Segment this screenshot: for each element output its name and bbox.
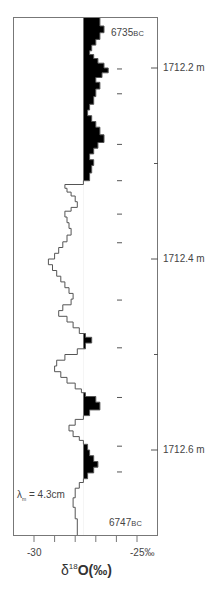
- sample-marker-dashes: [117, 69, 122, 472]
- bottom-date-era: BC: [131, 519, 142, 528]
- top-date-era: BC: [133, 29, 144, 38]
- x-axis-title-isotope: 18: [69, 562, 78, 571]
- bottom-date-value: 6747: [109, 517, 131, 528]
- top-date-value: 6735: [111, 27, 133, 38]
- x-axis-ticks: [34, 536, 137, 542]
- depth-axis-ticks: [151, 68, 158, 450]
- x-axis-title: δ18O(‰): [61, 562, 112, 578]
- top-date-label: 6735BC: [111, 27, 144, 38]
- x-axis-title-delta: δ: [61, 562, 69, 578]
- lambda-annotation: λm = 4.3cm: [17, 489, 65, 502]
- x-axis-title-main: O(‰): [78, 562, 112, 578]
- depth-label-1712-2: 1712.2 m: [163, 62, 205, 73]
- lambda-value: = 4.3cm: [26, 489, 65, 500]
- x-tick-label-minus-25: -25‰: [130, 547, 154, 558]
- depth-label-1712-4: 1712.4 m: [163, 253, 205, 264]
- isotope-profile-chart: [0, 0, 216, 595]
- delta18o-curve: [48, 17, 108, 536]
- x-tick-label-minus-30: -30: [27, 547, 41, 558]
- depth-label-1712-6: 1712.6 m: [163, 444, 205, 455]
- bottom-date-label: 6747BC: [109, 517, 142, 528]
